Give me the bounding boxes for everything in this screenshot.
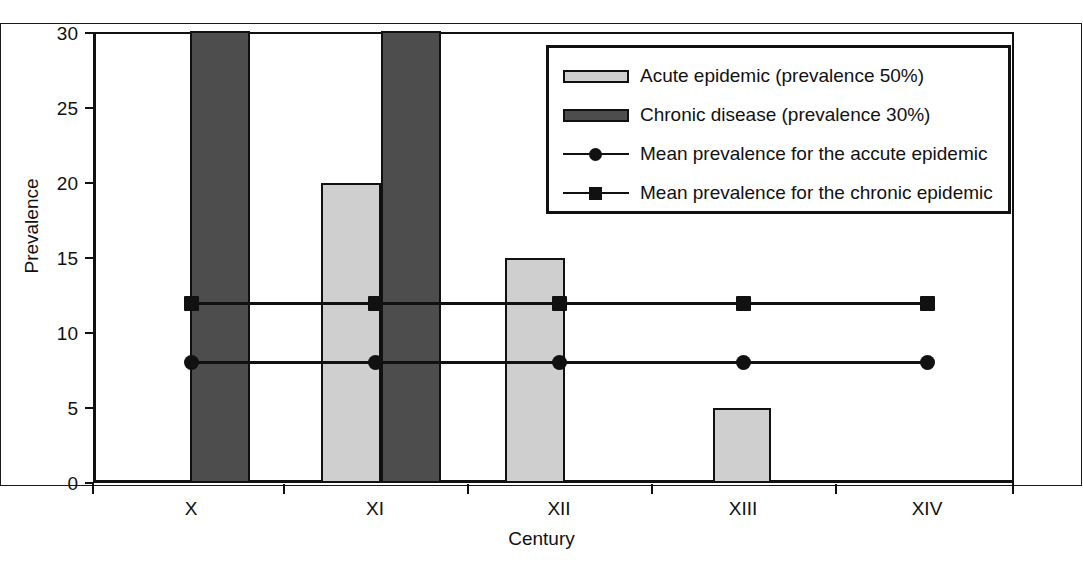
legend-swatch-acute-icon <box>563 70 629 83</box>
marker-chronic-XII <box>552 296 567 311</box>
x-tick-label-X: X <box>185 498 198 520</box>
marker-chronic-XIV <box>920 296 935 311</box>
legend-label-mean-chronic: Mean prevalence for the chronic epidemic <box>640 182 993 204</box>
bar-chronic-X <box>190 31 250 483</box>
y-tick-label-15: 15 <box>57 249 78 268</box>
chart-legend: Acute epidemic (prevalence 50%) Chronic … <box>546 45 1011 214</box>
y-tick-label-10: 10 <box>57 324 78 343</box>
marker-acute-X <box>184 355 199 370</box>
bar-chronic-XI <box>381 31 441 483</box>
x-tick-5 <box>1012 484 1014 494</box>
bar-acute-XIII <box>713 408 771 483</box>
marker-chronic-XIII <box>736 296 751 311</box>
x-tick-label-XI: XI <box>366 498 384 520</box>
x-tick-label-XIV: XIV <box>912 498 943 520</box>
x-tick-1 <box>283 484 285 494</box>
marker-acute-XIV <box>920 355 935 370</box>
y-axis-title: Prevalence <box>21 156 43 296</box>
x-axis-title: Century <box>0 528 1083 550</box>
plot-right-border <box>1012 32 1014 484</box>
legend-label-acute-epidemic: Acute epidemic (prevalence 50%) <box>640 65 924 87</box>
legend-item-mean-acute: Mean prevalence for the accute epidemic <box>563 137 987 171</box>
bar-acute-XII <box>505 258 565 483</box>
x-tick-2 <box>467 484 469 494</box>
x-tick-label-XIII: XIII <box>729 498 758 520</box>
legend-item-chronic-disease: Chronic disease (prevalence 30%) <box>563 98 930 132</box>
x-tick-3 <box>651 484 653 494</box>
y-tick-label-30: 30 <box>57 24 78 43</box>
marker-acute-XI <box>368 355 383 370</box>
marker-acute-XII <box>552 355 567 370</box>
x-tick-4 <box>835 484 837 494</box>
y-tick-label-20: 20 <box>57 174 78 193</box>
y-tick-label-25: 25 <box>57 99 78 118</box>
y-tick-label-0: 0 <box>67 474 78 493</box>
legend-item-mean-chronic: Mean prevalence for the chronic epidemic <box>563 176 993 210</box>
legend-swatch-chronic-icon <box>563 109 629 122</box>
chart-screenshot: 30 25 20 15 10 5 0 Prevalence <box>0 0 1083 576</box>
marker-chronic-X <box>184 296 199 311</box>
bar-acute-XI <box>321 183 381 483</box>
x-tick-0 <box>92 484 94 494</box>
legend-line-square-icon <box>563 186 629 200</box>
x-tick-label-XII: XII <box>547 498 570 520</box>
y-tick-label-5: 5 <box>67 399 78 418</box>
legend-label-mean-acute: Mean prevalence for the accute epidemic <box>640 143 987 165</box>
marker-chronic-XI <box>368 296 383 311</box>
legend-label-chronic-disease: Chronic disease (prevalence 30%) <box>640 104 930 126</box>
legend-line-circle-icon <box>563 147 629 161</box>
legend-item-acute-epidemic: Acute epidemic (prevalence 50%) <box>563 59 924 93</box>
marker-acute-XIII <box>736 355 751 370</box>
